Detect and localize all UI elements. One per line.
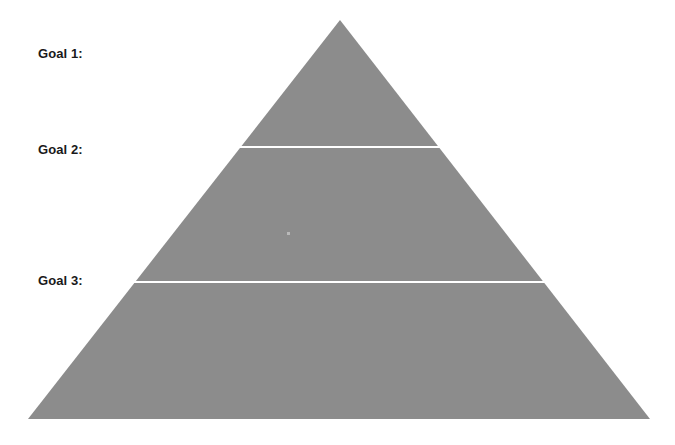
pyramid-shape [28,20,650,419]
goal-3-label: Goal 3: [38,273,83,288]
pyramid-graphic [0,0,675,445]
goal-1-label: Goal 1: [38,46,83,61]
image-speck-artifact [287,232,290,235]
goal-2-label: Goal 2: [38,142,83,157]
diagram-canvas: Goal 1: Goal 2: Goal 3: [0,0,675,445]
